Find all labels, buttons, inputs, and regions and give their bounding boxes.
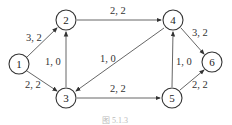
node-6: 6 — [202, 52, 222, 72]
node-2: 2 — [56, 10, 76, 30]
edge-label-5-6: 2, 2 — [192, 79, 208, 90]
edge-label-3-5: 2, 2 — [110, 83, 126, 94]
node-4: 4 — [163, 10, 183, 30]
svg-text:2: 2 — [63, 14, 69, 26]
edge-label-1-3: 2, 2 — [25, 79, 41, 90]
edge-label-2-4: 2, 2 — [110, 5, 126, 16]
edge-label-4-6: 3, 2 — [192, 27, 208, 38]
network-flow-diagram: 3, 2 2, 2 1, 0 2, 2 1, 0 2, 2 1, 0 3, 2 … — [0, 0, 232, 125]
node-3: 3 — [56, 88, 76, 108]
figure-caption: 图 5.1.3 — [102, 116, 128, 125]
edge-5-4 — [172, 32, 173, 87]
edge-label-4-3: 1, 0 — [100, 53, 116, 64]
svg-text:6: 6 — [209, 56, 215, 68]
edge-label-1-2: 3, 2 — [26, 32, 42, 43]
edge-4-3 — [76, 28, 164, 91]
svg-text:1: 1 — [16, 58, 22, 70]
edge-label-5-4: 1, 0 — [176, 56, 192, 67]
edge-label-3-2: 1, 0 — [45, 56, 61, 67]
svg-text:5: 5 — [169, 92, 175, 104]
node-5: 5 — [162, 88, 182, 108]
svg-text:4: 4 — [170, 14, 176, 26]
node-1: 1 — [9, 54, 29, 74]
svg-text:3: 3 — [63, 92, 69, 104]
